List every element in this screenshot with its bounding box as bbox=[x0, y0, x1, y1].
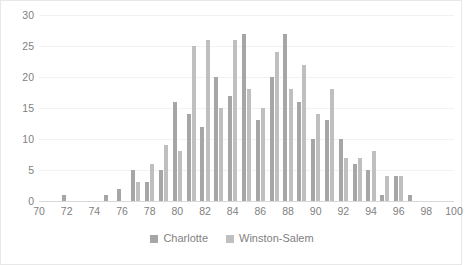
y-tick-label-25: 25 bbox=[8, 41, 34, 52]
x-tick-label-80: 80 bbox=[162, 206, 192, 217]
gridline-y-30 bbox=[39, 15, 454, 16]
legend-swatch-icon bbox=[150, 235, 158, 243]
x-tick-label-84: 84 bbox=[218, 206, 248, 217]
bar-winston-salem-82 bbox=[206, 40, 210, 201]
bar-charlotte-89 bbox=[297, 102, 301, 201]
legend-label: Charlotte bbox=[163, 233, 208, 244]
y-tick-label-15: 15 bbox=[8, 103, 34, 114]
bar-charlotte-87 bbox=[270, 77, 274, 201]
y-tick-label-5: 5 bbox=[8, 165, 34, 176]
x-tick-label-78: 78 bbox=[135, 206, 165, 217]
bar-winston-salem-90 bbox=[316, 114, 320, 201]
x-tick-label-82: 82 bbox=[190, 206, 220, 217]
bar-charlotte-79 bbox=[159, 170, 163, 201]
x-tick-label-74: 74 bbox=[79, 206, 109, 217]
bar-winston-salem-85 bbox=[247, 89, 251, 201]
bar-charlotte-82 bbox=[200, 127, 204, 201]
x-tick-label-88: 88 bbox=[273, 206, 303, 217]
x-tick-label-96: 96 bbox=[384, 206, 414, 217]
bar-winston-salem-96 bbox=[399, 176, 403, 201]
bar-charlotte-85 bbox=[242, 34, 246, 201]
bar-charlotte-94 bbox=[366, 170, 370, 201]
y-tick-label-30: 30 bbox=[8, 10, 34, 21]
bar-winston-salem-94 bbox=[372, 151, 376, 201]
x-tick-label-92: 92 bbox=[328, 206, 358, 217]
bar-charlotte-80 bbox=[173, 102, 177, 201]
bar-charlotte-86 bbox=[256, 120, 260, 201]
bar-charlotte-78 bbox=[145, 182, 149, 201]
plot-area bbox=[39, 15, 454, 202]
gridline-y-25 bbox=[39, 46, 454, 47]
y-tick-label-10: 10 bbox=[8, 134, 34, 145]
bar-charlotte-88 bbox=[283, 34, 287, 201]
legend-label: Winston-Salem bbox=[239, 233, 314, 244]
bar-winston-salem-88 bbox=[289, 89, 293, 201]
legend-swatch-icon bbox=[226, 235, 234, 243]
x-axis-line bbox=[39, 201, 454, 202]
y-tick-label-0: 0 bbox=[8, 196, 34, 207]
bar-charlotte-83 bbox=[214, 77, 218, 201]
bar-winston-salem-89 bbox=[302, 65, 306, 201]
bar-winston-salem-86 bbox=[261, 108, 265, 201]
x-tick-label-98: 98 bbox=[411, 206, 441, 217]
bar-winston-salem-91 bbox=[330, 89, 334, 201]
bar-winston-salem-92 bbox=[344, 158, 348, 201]
bar-winston-salem-81 bbox=[192, 46, 196, 201]
x-tick-label-76: 76 bbox=[107, 206, 137, 217]
x-tick-label-100: 100 bbox=[439, 206, 468, 217]
bar-winston-salem-83 bbox=[219, 108, 223, 201]
x-tick-label-94: 94 bbox=[356, 206, 386, 217]
bar-winston-salem-84 bbox=[233, 40, 237, 201]
y-tick-label-20: 20 bbox=[8, 72, 34, 83]
bar-winston-salem-87 bbox=[275, 52, 279, 201]
bar-charlotte-96 bbox=[394, 176, 398, 201]
chart-legend: CharlotteWinston-Salem bbox=[1, 233, 463, 244]
x-tick-label-86: 86 bbox=[245, 206, 275, 217]
x-tick-label-70: 70 bbox=[24, 206, 54, 217]
bar-winston-salem-80 bbox=[178, 151, 182, 201]
x-tick-label-72: 72 bbox=[52, 206, 82, 217]
bar-charlotte-77 bbox=[131, 170, 135, 201]
bar-winston-salem-79 bbox=[164, 145, 168, 201]
gridline-y-20 bbox=[39, 77, 454, 78]
legend-item-charlotte[interactable]: Charlotte bbox=[150, 233, 208, 244]
legend-item-winston-salem[interactable]: Winston-Salem bbox=[226, 233, 314, 244]
bar-charlotte-90 bbox=[311, 139, 315, 201]
x-tick-label-90: 90 bbox=[301, 206, 331, 217]
bar-charlotte-81 bbox=[187, 114, 191, 201]
bar-charlotte-84 bbox=[228, 96, 232, 201]
bar-charlotte-91 bbox=[325, 120, 329, 201]
bar-winston-salem-78 bbox=[150, 164, 154, 201]
bar-charlotte-92 bbox=[339, 139, 343, 201]
bar-winston-salem-93 bbox=[358, 158, 362, 201]
bar-charlotte-76 bbox=[117, 189, 121, 201]
bar-charlotte-93 bbox=[353, 164, 357, 201]
bar-winston-salem-95 bbox=[385, 176, 389, 201]
bar-winston-salem-77 bbox=[136, 182, 140, 201]
